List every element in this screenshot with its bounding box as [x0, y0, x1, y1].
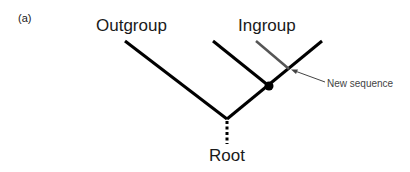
new-sequence-branch: [256, 41, 289, 69]
ingroup-left-branch: [213, 41, 269, 86]
outgroup-branch: [125, 41, 227, 119]
new-sequence-arrow: [295, 71, 325, 82]
outgroup-label: Outgroup: [96, 16, 167, 36]
arrow-head-icon: [291, 70, 298, 75]
ingroup-node: [265, 82, 274, 91]
panel-label: (a): [18, 12, 31, 24]
ingroup-right-branch: [227, 41, 322, 119]
ingroup-label: Ingroup: [238, 16, 296, 36]
root-label: Root: [209, 146, 245, 166]
new-sequence-label: New sequence: [327, 78, 393, 89]
